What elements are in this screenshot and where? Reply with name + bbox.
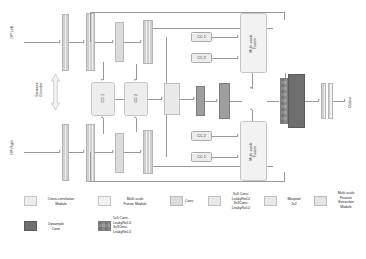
arrow-dec-4 — [318, 99, 320, 101]
arrow-fusion-top-out — [250, 87, 252, 89]
arrow-fusion-bottom-out — [250, 108, 252, 110]
arrow-cc2-out — [161, 97, 163, 99]
edge-dec-2 — [230, 101, 242, 102]
edge-input-right — [24, 152, 60, 153]
legend-label-upsample-conv: Upsample Conv — [39, 222, 73, 231]
msfeat-center-block — [164, 83, 180, 115]
arrow-left3-cc1 — [101, 79, 103, 81]
legend-swatch-multi-scale-fusion-module — [98, 196, 111, 206]
skip-right-bottom — [90, 181, 285, 182]
conv-block-right-1 — [62, 124, 69, 181]
conv-block-right-3 — [115, 133, 124, 173]
legend-swatch-maxpool — [264, 196, 277, 206]
arrow-left-2-3 — [112, 40, 114, 42]
arrow-left-1-2 — [83, 40, 85, 42]
skip-right-up — [284, 172, 285, 181]
legend-label-multi-scale-fusion-module: Multi-scale Fusion Module — [113, 197, 157, 206]
edge-dec-3 — [267, 101, 279, 102]
edge-ccbox-top-2 — [212, 58, 238, 59]
arrow-right4-cc2 — [134, 116, 136, 118]
arrow-right-3-4 — [140, 150, 142, 152]
legend-swatch-conv5-leakyrelu-stack — [98, 221, 111, 231]
cc-module-2-label: CC 2 — [134, 86, 138, 110]
edge-left-3-4 — [124, 42, 141, 43]
input-label-dp-right: DP Right — [10, 134, 14, 160]
arrow-left-3-4 — [140, 40, 142, 42]
legend-label-conv-leakyrelu-stack: 3x3 Conv- LeakyReLU 3x3Conv- LeakyReLU — [223, 192, 259, 210]
arrow-center-out — [193, 97, 195, 99]
edge-ccbox-bottom-1 — [212, 136, 238, 137]
arrow-output — [344, 99, 346, 101]
diagram-canvas: DP Left DP Right Siamese Encoder CC 1 — [0, 0, 366, 259]
arrow-input-left — [59, 40, 61, 42]
input-label-dp-left: DP Left — [10, 19, 14, 45]
conv-block-out-1 — [321, 83, 326, 119]
arrow-dec-1 — [216, 99, 218, 101]
cc1-out-h — [115, 99, 124, 100]
conv-block-left-3 — [115, 22, 124, 62]
edge-center-out — [180, 99, 194, 100]
cc-module-1-label: CC 1 — [101, 86, 105, 110]
edge-right-3-4 — [124, 152, 141, 153]
legend-swatch-cross-correlation-module — [24, 196, 37, 206]
edge-input-left — [24, 42, 60, 43]
arrow-ccbox-top-1 — [237, 35, 239, 37]
msfeat-block-right-1 — [280, 78, 288, 124]
upsample-conv-block-1 — [196, 86, 205, 116]
skip-left-down — [284, 12, 285, 20]
legend-label-cross-correlation-module: Cross-correlation Module — [39, 197, 83, 206]
feed-left4-cc2 — [136, 64, 137, 80]
arrow-ccbox-bottom-1 — [237, 134, 239, 136]
skip-left-up — [90, 12, 91, 42]
edge-ccbox-top-1 — [212, 37, 238, 38]
legend-label-conv: Conv — [185, 199, 209, 204]
legend-swatch-conv-leakyrelu-stack — [208, 196, 221, 206]
edge-left-1-2 — [69, 42, 84, 43]
edge-ccbox-bottom-2 — [212, 157, 238, 158]
upsample-conv-block-3 — [288, 74, 305, 128]
edge-right-1-2 — [69, 152, 84, 153]
cc2-out-h — [148, 99, 162, 100]
upsample-conv-block-2 — [219, 83, 230, 119]
legend-swatch-upsample-conv — [24, 221, 37, 231]
siamese-encoder-label: Siamese Encoder — [35, 72, 44, 106]
arrow-input-right — [59, 150, 61, 152]
output-label: Output — [348, 89, 352, 115]
arrow-ccbox-bottom-2 — [237, 155, 239, 157]
cc-box-top-2-label: CC 2 — [191, 56, 212, 60]
arrow-right-2-3 — [112, 150, 114, 152]
trunk-down-to-ccbox — [166, 115, 167, 157]
conv-block-left-4 — [143, 20, 153, 64]
skip-right-down — [90, 152, 91, 182]
arrow-ccbox-top-2 — [237, 56, 239, 58]
legend-swatch-conv — [170, 196, 183, 206]
multi-scale-fusion-top-label: Multi-scale Fusion — [249, 28, 258, 59]
arrow-right-1-2 — [83, 150, 85, 152]
multi-scale-fusion-bottom-label: Multi-scale Fusion — [249, 136, 258, 167]
feed-left3-cc1 — [103, 62, 104, 80]
cc-box-bottom-1-label: CC 2 — [191, 134, 212, 138]
cc-box-bottom-2-label: CC 1 — [191, 155, 212, 159]
legend-label-conv5-leakyrelu-stack: 5x5 Conv- LeakyReLU 3x3Conv- LeakyReLU — [113, 216, 153, 234]
legend: Cross-correlation Module Multi-scale Fus… — [22, 186, 354, 244]
arrow-left4-cc2 — [134, 79, 136, 81]
edge-left-2-3 — [95, 42, 113, 43]
siamese-double-arrow-icon — [50, 73, 61, 111]
trunk-up-to-ccbox — [166, 37, 167, 83]
feed-right3-cc1 — [103, 118, 104, 134]
legend-swatch-multi-scale-feature-extraction-module — [314, 196, 327, 206]
arrow-right3-cc1 — [101, 116, 103, 118]
conv-block-left-1 — [62, 14, 69, 71]
legend-label-maxpool: Maxpool 2x2 — [279, 197, 309, 206]
edge-dec-4 — [305, 101, 319, 102]
conv-block-right-4 — [143, 130, 153, 174]
cc-box-top-1-label: CC 1 — [191, 35, 212, 39]
feed-right4-cc2 — [136, 118, 137, 132]
fusion-bottom-out-v — [252, 110, 253, 121]
edge-right-2-3 — [95, 152, 113, 153]
legend-label-multi-scale-feature-extraction-module: Multi-scale Feature Extraction Module — [329, 191, 363, 209]
